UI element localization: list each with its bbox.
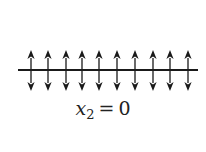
label-equals: = (98, 97, 114, 119)
arrowhead-up-icon (131, 50, 138, 59)
arrowhead-down-icon (149, 82, 156, 91)
arrowhead-down-icon (166, 82, 173, 91)
arrowhead-up-icon (27, 50, 34, 59)
arrowhead-up-icon (62, 50, 69, 59)
arrowhead-up-icon (78, 50, 85, 59)
arrowhead-up-icon (113, 50, 120, 59)
arrowhead-down-icon (44, 82, 51, 91)
arrowhead-down-icon (78, 82, 85, 91)
arrowhead-down-icon (95, 82, 102, 91)
arrowhead-down-icon (131, 82, 138, 91)
arrowhead-down-icon (62, 82, 69, 91)
arrowhead-up-icon (44, 50, 51, 59)
arrowhead-down-icon (184, 82, 191, 91)
arrowhead-down-icon (27, 82, 34, 91)
arrowhead-up-icon (149, 50, 156, 59)
arrowhead-down-icon (113, 82, 120, 91)
diagram-canvas (0, 0, 206, 152)
label-subscript: 2 (86, 107, 94, 122)
arrowhead-up-icon (166, 50, 173, 59)
arrowhead-up-icon (184, 50, 191, 59)
label-value: 0 (118, 97, 130, 119)
line-equation-label: x2=0 (0, 96, 206, 127)
arrowhead-up-icon (95, 50, 102, 59)
label-variable: x (75, 97, 86, 119)
